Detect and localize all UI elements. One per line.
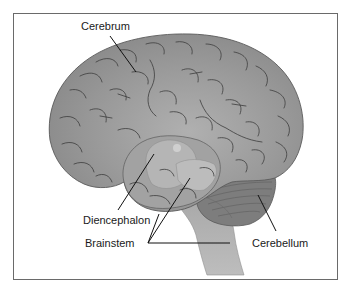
diencephalon-label: Diencephalon (83, 214, 150, 226)
brainstem-label: Brainstem (85, 237, 135, 249)
cerebrum-label: Cerebrum (81, 20, 130, 32)
cerebellum-label: Cerebellum (252, 237, 308, 249)
